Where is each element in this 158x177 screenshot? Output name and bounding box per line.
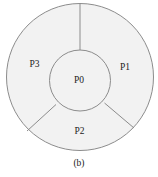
label-p0: P0 <box>74 75 84 85</box>
partition-diagram: P0 P1 P2 P3 (b) <box>0 0 158 177</box>
figure-caption: (b) <box>73 158 84 169</box>
label-p1: P1 <box>120 62 130 72</box>
label-p3: P3 <box>29 59 39 69</box>
label-p2: P2 <box>74 126 84 136</box>
